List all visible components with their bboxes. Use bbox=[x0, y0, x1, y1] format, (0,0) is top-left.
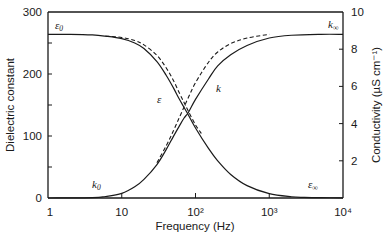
k-label: k bbox=[216, 82, 222, 94]
y-tick-label: 100 bbox=[23, 130, 42, 142]
annotation-epsinf: ε∞ bbox=[308, 178, 318, 192]
x-tick-label: 10² bbox=[187, 206, 204, 218]
annotation-k: k bbox=[216, 82, 222, 94]
epsilon-dashed-curve bbox=[105, 36, 201, 133]
y2-tick-label: 4 bbox=[351, 118, 358, 130]
k0-subscript: 0 bbox=[97, 183, 101, 192]
svg-text:k0: k0 bbox=[92, 178, 101, 192]
y-tick-label: 200 bbox=[23, 68, 42, 80]
epsinf-subscript: ∞ bbox=[312, 183, 318, 192]
kinf-subscript: ∞ bbox=[333, 23, 339, 32]
x-axis-title: Frequency (Hz) bbox=[155, 220, 234, 232]
x-tick-label: 10³ bbox=[261, 206, 278, 218]
right-y-axis-title: Conductivity (µS cm⁻¹) bbox=[370, 47, 382, 163]
annotation-eps: ε bbox=[157, 93, 162, 105]
y2-tick-label: 8 bbox=[351, 43, 357, 55]
annotation-eps0: ε0 bbox=[55, 19, 63, 33]
left-y-axis-title: Dielectric constant bbox=[4, 57, 16, 152]
annotation-k0: k0 bbox=[92, 178, 101, 192]
dielectric-conductivity-chart: 11010²10³10⁴ 0100200300 246810 Frequency… bbox=[0, 0, 391, 237]
x-tick-label: 10 bbox=[115, 206, 128, 218]
conductivity-solid-curve bbox=[48, 34, 343, 198]
x-tick-label: 1 bbox=[47, 206, 53, 218]
annotation-kinf: k∞ bbox=[328, 18, 339, 32]
svg-text:k∞: k∞ bbox=[328, 18, 339, 32]
y-tick-label: 300 bbox=[23, 6, 42, 18]
x-tick-label: 10⁴ bbox=[334, 206, 352, 218]
conductivity-dashed-curve bbox=[157, 34, 269, 162]
y2-tick-label: 6 bbox=[351, 80, 357, 92]
svg-text:ε∞: ε∞ bbox=[308, 178, 318, 192]
eps0-subscript: 0 bbox=[59, 24, 63, 33]
svg-text:ε0: ε0 bbox=[55, 19, 63, 33]
curves bbox=[48, 34, 343, 198]
eps-label: ε bbox=[157, 93, 162, 105]
plot-frame bbox=[48, 12, 343, 198]
y2-tick-label: 2 bbox=[351, 155, 357, 167]
x-axis-ticks: 11010²10³10⁴ bbox=[47, 193, 352, 218]
y-tick-label: 0 bbox=[36, 192, 42, 204]
epsilon-solid-curve bbox=[48, 34, 343, 198]
y2-tick-label: 10 bbox=[351, 6, 364, 18]
